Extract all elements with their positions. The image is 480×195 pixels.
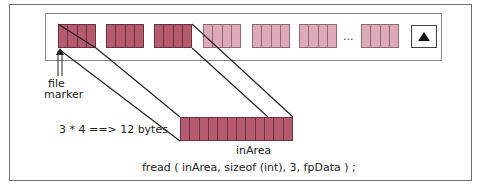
fread-diagram: ... file marker 3 * 4 ==> 12 bytes inAre…: [0, 0, 480, 195]
bytes-label: 3 * 4 ==> 12 bytes: [59, 123, 168, 136]
code-line: fread ( inArea, sizeof (int), 3, fpData …: [142, 161, 356, 174]
file-marker-label-2: marker: [44, 88, 83, 101]
inarea-label: inArea: [236, 144, 271, 157]
